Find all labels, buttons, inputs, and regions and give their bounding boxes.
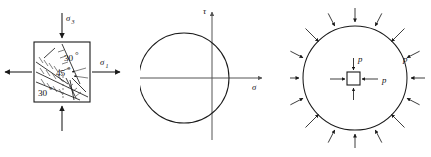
inner-pressure-label-top: p (357, 54, 363, 64)
sigma1-label: σ (100, 57, 105, 67)
svg-text:30: 30 (64, 53, 74, 63)
stress-element-panel: σ 3 σ 1 (0, 0, 150, 157)
inner-pressure-label-right: p (381, 75, 387, 85)
sigma3-label: σ (66, 13, 71, 23)
sigma3-subscript: 3 (71, 19, 75, 25)
inner-stress-element (347, 72, 360, 85)
sigma-axis-label: σ (252, 82, 257, 92)
mohr-circle-panel: τ σ (140, 0, 300, 157)
svg-text:30: 30 (38, 88, 48, 98)
svg-text:°: ° (67, 65, 71, 75)
radial-pressure-panel: p p p (290, 0, 431, 157)
figure-root: σ 3 σ 1 (0, 0, 431, 157)
svg-text:°: ° (49, 85, 53, 95)
outer-pressure-label: p (402, 54, 408, 64)
svg-text:°: ° (75, 50, 79, 60)
svg-text:45: 45 (56, 68, 66, 78)
sigma1-subscript: 1 (106, 63, 109, 69)
tau-axis-label: τ (203, 6, 207, 16)
